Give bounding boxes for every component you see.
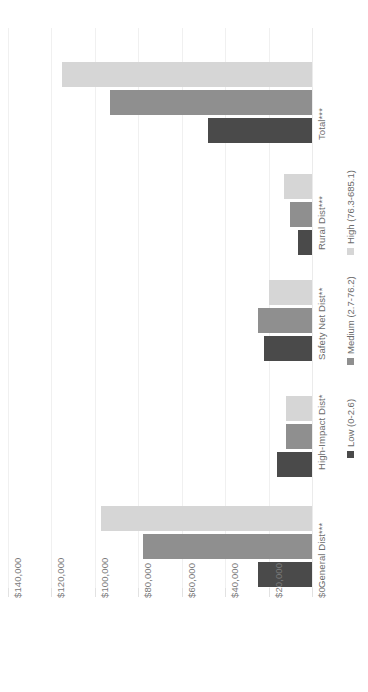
category-label: Rural Dist*** xyxy=(316,196,327,250)
category-label: Safety Net Dist** xyxy=(316,288,327,360)
bar xyxy=(286,424,312,449)
bar xyxy=(62,62,312,87)
bar xyxy=(290,202,312,227)
value-axis-label: $20,000 xyxy=(273,563,284,598)
bar xyxy=(258,308,312,333)
category-label: Total*** xyxy=(316,108,327,140)
value-axis-label: $0 xyxy=(316,587,327,598)
bar-group xyxy=(8,506,312,590)
bar-group xyxy=(8,62,312,146)
value-axis-label: $40,000 xyxy=(229,563,240,598)
legend-label: Medium (2.7-76.2) xyxy=(345,276,356,354)
bar xyxy=(143,534,312,559)
gridline xyxy=(312,28,313,588)
value-axis-label: $120,000 xyxy=(55,558,66,598)
bar-group xyxy=(8,174,312,258)
bar xyxy=(208,118,312,143)
value-axis-label: $60,000 xyxy=(186,563,197,598)
bar-group xyxy=(8,396,312,480)
value-axis-label: $140,000 xyxy=(12,558,23,598)
category-label: General Dist*** xyxy=(316,523,327,588)
bar-group xyxy=(8,280,312,364)
category-label: High-Impact Dist* xyxy=(316,394,327,470)
bar xyxy=(277,452,312,477)
bar xyxy=(269,280,312,305)
legend-swatch-medium xyxy=(347,358,354,365)
bar xyxy=(258,562,312,587)
bar xyxy=(286,396,312,421)
legend-swatch-high xyxy=(347,248,354,255)
bar xyxy=(284,174,312,199)
value-axis-label: $100,000 xyxy=(99,558,110,598)
bar xyxy=(264,336,312,361)
legend-item[interactable]: High (76.3-685.1) xyxy=(345,170,356,255)
axis-tick xyxy=(312,588,313,597)
bar xyxy=(298,230,312,255)
legend-label: High (76.3-685.1) xyxy=(345,170,356,244)
plot-area xyxy=(8,28,312,588)
bar xyxy=(101,506,312,531)
bar-groups xyxy=(8,28,312,588)
legend-item[interactable]: Medium (2.7-76.2) xyxy=(345,276,356,365)
value-axis-label: $80,000 xyxy=(142,563,153,598)
bar-chart: General Dist***High-Impact Dist*Safety N… xyxy=(0,0,368,692)
legend-item[interactable]: Low (0-2.6) xyxy=(345,399,356,458)
legend-swatch-low xyxy=(347,451,354,458)
legend-label: Low (0-2.6) xyxy=(345,399,356,447)
bar xyxy=(110,90,312,115)
